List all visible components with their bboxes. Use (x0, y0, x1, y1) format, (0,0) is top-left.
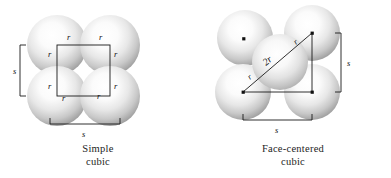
dot-top-left (242, 37, 245, 40)
crystal-packing-figure: r r r r r r r r s s Simple cubic (0, 0, 391, 178)
panel-simple-cubic: r r r r r r r r s s Simple cubic (0, 0, 196, 178)
face-centered-cubic-diagram: r r 2r s s (195, 0, 391, 143)
dot-top-right (311, 32, 314, 35)
dot-bottom-right (311, 91, 314, 94)
panel-face-centered-cubic: r r 2r s s Face-centered cubic (195, 0, 391, 178)
label-s-vertical-fcc: s (347, 58, 351, 68)
caption-simple-cubic-line2: cubic (0, 156, 196, 169)
caption-fcc-line1: Face-centered (195, 143, 391, 156)
caption-fcc-line2: cubic (195, 156, 391, 169)
caption-simple-cubic: Simple cubic (0, 143, 196, 168)
label-s-horizontal: s (82, 129, 86, 139)
label-s-vertical: s (13, 66, 17, 76)
sphere-group-simple-cubic (27, 15, 140, 126)
bracket-vertical-s (20, 45, 26, 96)
label-s-horizontal-fcc: s (275, 125, 279, 135)
sphere-face-center (252, 34, 308, 90)
simple-cubic-diagram: r r r r r r r r s s (0, 0, 196, 143)
caption-face-centered-cubic: Face-centered cubic (195, 143, 391, 168)
caption-simple-cubic-line1: Simple (0, 143, 196, 156)
dot-bottom-left (242, 91, 245, 94)
